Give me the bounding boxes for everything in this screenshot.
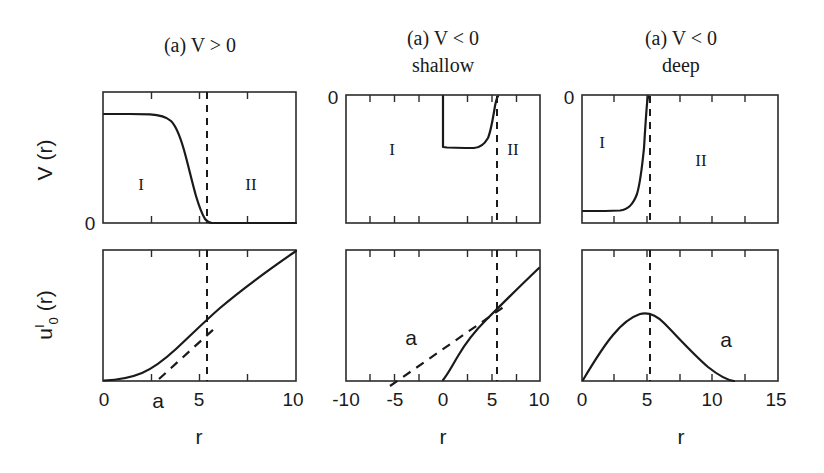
col2-top-zero-label: 0 bbox=[328, 87, 339, 108]
col3-xtick-5: 5 bbox=[642, 389, 653, 410]
col3-xaxis-name: r bbox=[678, 425, 685, 448]
col2-xtick-0: 0 bbox=[438, 389, 449, 410]
col2-xaxis-name: r bbox=[440, 425, 447, 448]
column-1-title-line1: (a) V > 0 bbox=[164, 34, 236, 57]
ylabel-sup-I: I bbox=[32, 324, 47, 328]
col2-a-marker: a bbox=[405, 326, 417, 349]
col1-xaxis-name: r bbox=[196, 425, 203, 448]
col3-xtick-15: 15 bbox=[765, 389, 786, 410]
col3-xtick-10: 10 bbox=[701, 389, 722, 410]
figure-root: (a) V > 0 V (r) 0 I II bbox=[0, 0, 824, 473]
col1-xtick-0: 0 bbox=[99, 389, 110, 410]
col3-top-zero-label: 0 bbox=[564, 87, 575, 108]
col2-xtick-10: 10 bbox=[528, 389, 549, 410]
col1-xtick-10: 10 bbox=[282, 389, 303, 410]
column-2-title-line2: shallow bbox=[412, 54, 475, 76]
col2-xtick-5: 5 bbox=[487, 389, 498, 410]
column-1-ylabel-top: V (r) bbox=[33, 140, 56, 181]
column-3-title-line2: deep bbox=[662, 54, 700, 77]
col2-top-region-I: I bbox=[389, 140, 395, 159]
col1-top-zero-label: 0 bbox=[85, 213, 96, 234]
col3-top-region-II: II bbox=[695, 151, 707, 170]
ylabel-sub-0: 0 bbox=[46, 317, 61, 324]
col3-xtick-0: 0 bbox=[577, 389, 588, 410]
col1-a-marker: a bbox=[152, 389, 164, 412]
col1-top-region-I: I bbox=[138, 175, 144, 194]
ylabel-tail: (r) bbox=[33, 290, 56, 317]
ylabel-u: u bbox=[33, 328, 56, 340]
figure-canvas: (a) V > 0 V (r) 0 I II bbox=[0, 0, 824, 473]
col1-top-region-II: II bbox=[245, 175, 257, 194]
col3-top-region-I: I bbox=[599, 133, 605, 152]
col2-xtick-minus5: -5 bbox=[387, 389, 404, 410]
col2-top-region-II: II bbox=[507, 140, 519, 159]
column-2-title-line1: (a) V < 0 bbox=[407, 27, 479, 50]
col2-xtick-minus10: -10 bbox=[332, 389, 359, 410]
col1-xtick-5: 5 bbox=[194, 389, 205, 410]
ylabel-v-r-text: V (r) bbox=[33, 140, 56, 181]
column-3-title-line1: (a) V < 0 bbox=[645, 27, 717, 50]
col3-a-marker: a bbox=[720, 328, 732, 351]
